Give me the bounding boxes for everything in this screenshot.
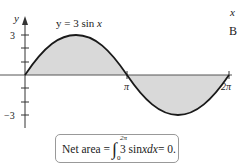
integrand: 3 sin: [120, 143, 142, 155]
clipped-text-x: x: [230, 6, 235, 18]
integral-upper-limit: 2π: [120, 135, 127, 142]
x-tick-label-pi: π: [124, 81, 130, 92]
integral-lower-limit: 0: [117, 155, 121, 162]
net-area-prefix: Net area =: [62, 143, 110, 155]
clipped-text-b: B: [229, 24, 237, 39]
curve-label: y = 3 sin x: [56, 17, 102, 29]
y-tick-label-3: 3: [10, 30, 15, 41]
net-area-annotation: Net area = ∫2π0 3 sin x dx = 0.: [55, 134, 179, 163]
y-tick-label-neg3: −3: [4, 110, 15, 121]
integral-sign: ∫2π0: [112, 140, 117, 158]
differential: dx: [147, 143, 158, 155]
net-area-result: = 0.: [158, 143, 176, 155]
y-axis-arrow-icon: [22, 16, 28, 25]
y-axis-label: y: [13, 12, 19, 24]
x-tick-label-2pi: 2π: [221, 81, 232, 92]
